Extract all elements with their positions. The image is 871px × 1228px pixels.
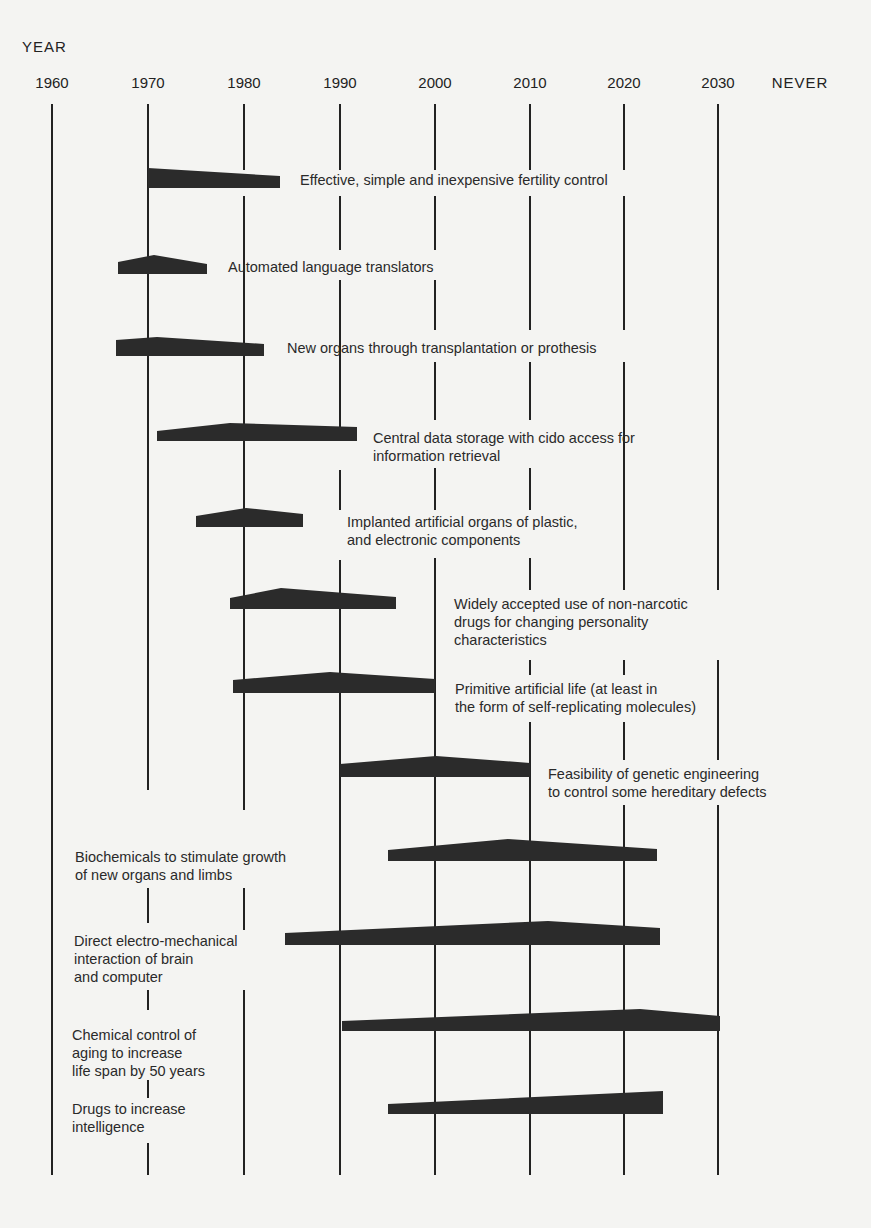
label-brain-computer-3: and computer — [74, 969, 163, 985]
label-implanted-organs-1: Implanted artificial organs of plastic, — [347, 514, 578, 530]
tick-never: NEVER — [772, 74, 829, 91]
bar-artificial-life — [233, 672, 435, 693]
label-fertility-control: Effective, simple and inexpensive fertil… — [300, 172, 608, 188]
bar-new-organs — [116, 337, 264, 356]
label-genetic-engineering-2: to control some hereditary defects — [548, 784, 766, 800]
bar-biochemicals — [388, 839, 657, 861]
label-non-narcotic-drugs-3: characteristics — [454, 632, 547, 648]
tick-2020: 2020 — [607, 74, 640, 91]
bar-language-translators — [118, 255, 207, 274]
label-non-narcotic-drugs-2: drugs for changing personality — [454, 614, 649, 630]
label-biochemicals-1: Biochemicals to stimulate growth — [75, 849, 286, 865]
forecast-labels: Effective, simple and inexpensive fertil… — [72, 172, 766, 1135]
forecast-timeline-chart: YEAR 1960 1970 1980 1990 2000 2010 2020 … — [0, 0, 871, 1228]
tick-2030: 2030 — [701, 74, 734, 91]
label-artificial-life-1: Primitive artificial life (at least in — [455, 681, 657, 697]
label-aging-control-1: Chemical control of — [72, 1027, 197, 1043]
forecast-bars — [116, 168, 720, 1114]
label-aging-control-3: life span by 50 years — [72, 1063, 205, 1079]
bar-central-data-storage — [157, 423, 357, 441]
tick-1970: 1970 — [131, 74, 164, 91]
axis-title: YEAR — [22, 38, 67, 55]
label-language-translators: Automated language translators — [228, 259, 434, 275]
label-intelligence-drugs-2: intelligence — [72, 1119, 145, 1135]
bar-non-narcotic-drugs — [230, 588, 396, 609]
label-aging-control-2: aging to increase — [72, 1045, 182, 1061]
label-central-data-storage-2: information retrieval — [373, 448, 500, 464]
tick-1980: 1980 — [227, 74, 260, 91]
label-central-data-storage-1: Central data storage with cido access fo… — [373, 430, 635, 446]
tick-2010: 2010 — [513, 74, 546, 91]
label-genetic-engineering-1: Feasibility of genetic engineering — [548, 766, 759, 782]
bar-implanted-organs — [196, 508, 303, 527]
bar-fertility-control — [148, 168, 280, 188]
label-non-narcotic-drugs-1: Widely accepted use of non-narcotic — [454, 596, 688, 612]
label-artificial-life-2: the form of self-replicating molecules) — [455, 699, 696, 715]
bar-brain-computer — [285, 921, 660, 945]
bar-genetic-engineering — [340, 756, 530, 777]
label-new-organs: New organs through transplantation or pr… — [287, 340, 597, 356]
label-brain-computer-2: interaction of brain — [74, 951, 193, 967]
year-ticks: 1960 1970 1980 1990 2000 2010 2020 2030 … — [35, 74, 828, 91]
tick-1960: 1960 — [35, 74, 68, 91]
bar-intelligence-drugs — [388, 1091, 663, 1114]
label-brain-computer-1: Direct electro-mechanical — [74, 933, 238, 949]
tick-1990: 1990 — [323, 74, 356, 91]
label-biochemicals-2: of new organs and limbs — [75, 867, 232, 883]
tick-2000: 2000 — [418, 74, 451, 91]
label-intelligence-drugs-1: Drugs to increase — [72, 1101, 186, 1117]
label-implanted-organs-2: and electronic components — [347, 532, 520, 548]
